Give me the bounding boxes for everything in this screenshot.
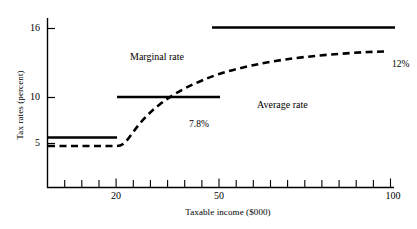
x-tick-label-50: 50 (199, 190, 239, 201)
y-tick-label-16: 16 (12, 22, 40, 33)
x-tick-label-20: 20 (96, 190, 136, 201)
average-rate-series (48, 51, 386, 146)
y-axis-title: Tax rates (percent) (15, 49, 25, 161)
x-tick-label-100: 100 (373, 190, 413, 201)
average-rate-label: Average rate (257, 99, 308, 110)
y-axis-ticks (48, 29, 56, 144)
average-rate-50k-label: 7.8% (189, 119, 209, 129)
average-rate-100k-label: 12% (392, 59, 409, 69)
marginal-rate-series (48, 28, 395, 138)
x-axis-ticks (65, 179, 391, 188)
tax-rate-chart: 16 10 5 20 50 100 Marginal rate Average … (0, 0, 417, 229)
x-axis-title: Taxable income ($000) (148, 207, 308, 217)
marginal-rate-label: Marginal rate (130, 51, 184, 62)
